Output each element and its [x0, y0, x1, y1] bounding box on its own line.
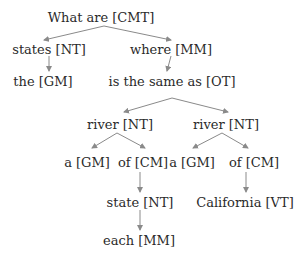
tree-node: a [GM] — [64, 156, 110, 169]
tree-node: What are [CMT] — [48, 11, 155, 24]
tree-node: river [NT] — [87, 118, 153, 131]
edge-arrow — [172, 98, 228, 112]
edge-arrow — [167, 56, 171, 71]
tree-node: states [NT] — [12, 43, 86, 56]
edge-arrow — [117, 133, 145, 148]
edge-arrow — [44, 26, 104, 40]
tree-node: where [MM] — [130, 43, 212, 56]
edge-arrow — [92, 133, 117, 148]
dependency-tree-diagram: What are [CMT]states [NT]where [MM]the [… — [0, 0, 303, 261]
tree-node: each [MM] — [103, 234, 175, 247]
tree-node: of [CM] — [118, 156, 168, 169]
tree-node: of [CM] — [229, 156, 279, 169]
tree-node: river [NT] — [193, 118, 259, 131]
tree-node: California [VT] — [196, 196, 293, 209]
tree-node: the [GM] — [13, 75, 72, 88]
tree-node: a [GM] — [169, 156, 215, 169]
edge-arrow — [124, 98, 172, 112]
edge-arrow — [193, 133, 222, 148]
edge-arrow — [222, 133, 248, 148]
tree-node: state [NT] — [107, 196, 174, 209]
tree-node: is the same as [OT] — [109, 75, 236, 88]
edge-arrow — [104, 26, 171, 40]
